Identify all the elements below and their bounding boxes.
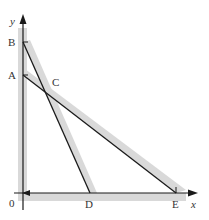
x-axis-label: x xyxy=(190,198,196,210)
line-ae xyxy=(23,75,176,193)
point-d-label: D xyxy=(85,198,93,210)
point-b-label: B xyxy=(8,36,15,48)
shade-x-axis xyxy=(18,193,186,201)
shaded-bands xyxy=(18,28,186,201)
point-a-label: A xyxy=(8,69,16,81)
coordinate-diagram: y x 0 B A C D E xyxy=(0,0,209,220)
y-axis-arrow-icon xyxy=(20,14,27,24)
x-axis-arrow-icon xyxy=(188,190,198,197)
point-e-label: E xyxy=(172,198,179,210)
y-axis-label: y xyxy=(9,15,15,27)
shade-line-ae xyxy=(23,69,186,193)
point-c-label: C xyxy=(52,76,59,88)
origin-label: 0 xyxy=(9,197,15,209)
